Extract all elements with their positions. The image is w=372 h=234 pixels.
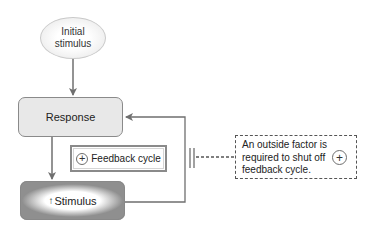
plus-circle-icon: + [76,153,88,165]
response-label: Response [46,111,96,123]
up-arrow-icon: ↑ [48,195,53,206]
stimulus-node: ↑ Stimulus [20,181,125,220]
initial-stimulus-node: Initial stimulus [40,17,106,59]
feedback-cycle-label: + Feedback cycle [70,145,167,172]
stimulus-label: Stimulus [54,195,96,207]
initial-stimulus-line1: Initial [55,26,92,38]
initial-stimulus-line2: stimulus [55,38,92,50]
response-node: Response [18,97,123,137]
note-plus-circle-icon: + [332,150,347,165]
feedback-cycle-text: Feedback cycle [91,153,160,164]
note-line-3: feedback cycle. [242,164,356,177]
